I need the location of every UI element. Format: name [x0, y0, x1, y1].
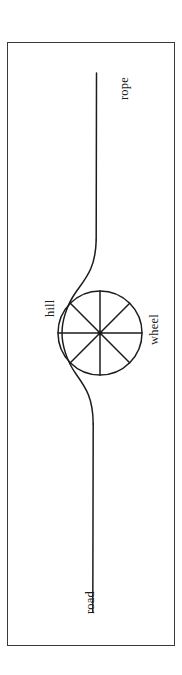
label-wheel: wheel: [148, 314, 161, 345]
label-rope: rope: [118, 77, 131, 100]
label-hill: hill: [44, 300, 57, 317]
figure-root: rope hill wheel road: [0, 0, 182, 675]
wheel-hub: [98, 331, 103, 336]
label-road: road: [84, 591, 97, 614]
hill-curve: [62, 240, 96, 424]
